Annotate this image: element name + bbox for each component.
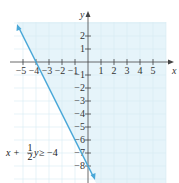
svg-text:1: 1 (99, 65, 104, 76)
svg-text:≥ −4: ≥ −4 (39, 147, 58, 158)
svg-text:−2: −2 (55, 65, 66, 76)
svg-text:3: 3 (125, 65, 130, 76)
y-axis-arrow-icon (86, 11, 91, 17)
svg-text:−5: −5 (16, 65, 27, 76)
x-axis-label: x (171, 65, 177, 76)
inequality-graph: x y −5 −4 −3 −2 −1 1 2 3 4 5 2 1 −1 −2 −… (0, 0, 179, 183)
svg-text:−8: −8 (74, 160, 85, 171)
svg-text:5: 5 (151, 65, 156, 76)
svg-text:2: 2 (80, 30, 85, 41)
svg-text:−2: −2 (74, 82, 85, 93)
svg-text:4: 4 (138, 65, 143, 76)
svg-text:2: 2 (28, 151, 33, 162)
svg-text:2: 2 (112, 65, 117, 76)
svg-text:−4: −4 (74, 108, 85, 119)
shaded-solution-region (17, 22, 166, 183)
svg-text:−5: −5 (74, 121, 85, 132)
svg-text:x +: x + (5, 147, 20, 158)
svg-text:−3: −3 (74, 95, 85, 106)
y-axis-label: y (79, 9, 85, 20)
svg-text:1: 1 (80, 43, 85, 54)
svg-text:−1: −1 (74, 69, 85, 80)
svg-text:−3: −3 (42, 65, 53, 76)
x-axis-arrow-icon (168, 60, 174, 65)
inequality-label: x + 1 2 y ≥ −4 (5, 142, 58, 162)
